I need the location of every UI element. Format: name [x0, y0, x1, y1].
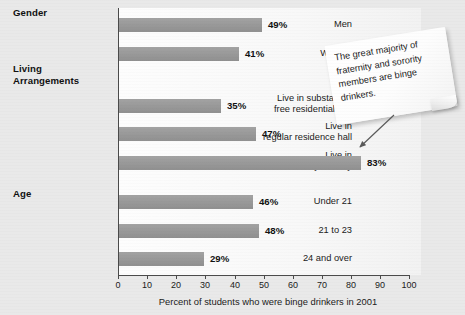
x-axis-title: Percent of students who were binge drink… [118, 296, 418, 307]
bar-value-regular-hall: 47% [262, 127, 281, 141]
bar-value-men: 49% [268, 18, 287, 32]
x-tick-label-80: 80 [339, 280, 363, 290]
bar-under-21 [119, 195, 253, 209]
bar-fraternity-sorority [119, 156, 361, 170]
x-tick-50 [264, 275, 265, 279]
x-tick-0 [118, 275, 119, 279]
group-title-age: Age [13, 188, 31, 200]
x-tick-40 [235, 275, 236, 279]
x-tick-20 [176, 275, 177, 279]
x-tick-label-60: 60 [281, 280, 305, 290]
x-tick-label-90: 90 [368, 280, 392, 290]
x-tick-label-0: 0 [106, 280, 130, 290]
bar-women [119, 47, 239, 61]
x-tick-label-40: 40 [223, 280, 247, 290]
group-title-living-line2: Arrangements [13, 75, 79, 87]
bar-value-substance-free: 35% [227, 99, 246, 113]
bar-value-fraternity-sorority: 83% [367, 156, 386, 170]
x-tick-label-10: 10 [135, 280, 159, 290]
x-tick-label-70: 70 [310, 280, 334, 290]
bar-label-21-to-23: 21 to 23 [318, 225, 352, 236]
x-tick-70 [322, 275, 323, 279]
x-tick-80 [351, 275, 352, 279]
group-title-gender: Gender [13, 7, 47, 19]
bar-label-24-and-over: 24 and over [303, 253, 352, 264]
bar-value-24-and-over: 29% [210, 252, 229, 266]
bar-21-to-23 [119, 224, 259, 238]
bar-substance-free [119, 99, 221, 113]
y-axis-line [118, 8, 119, 276]
bar-label-men: Men [334, 19, 352, 30]
bar-24-and-over [119, 252, 204, 266]
x-tick-label-20: 20 [164, 280, 188, 290]
bar-label-under-21: Under 21 [314, 196, 352, 207]
bar-men [119, 18, 262, 32]
group-title-living-line1: Living [13, 63, 42, 75]
chart-figure: Gender Living Arrangements Age Men Women… [0, 0, 465, 315]
x-tick-label-30: 30 [193, 280, 217, 290]
bar-regular-hall [119, 127, 256, 141]
bar-value-under-21: 46% [259, 195, 278, 209]
x-tick-label-50: 50 [252, 280, 276, 290]
callout-page-curl-icon [430, 95, 458, 111]
x-tick-90 [380, 275, 381, 279]
bar-value-21-to-23: 48% [265, 224, 284, 238]
x-tick-100 [409, 275, 410, 279]
x-tick-30 [205, 275, 206, 279]
x-tick-60 [293, 275, 294, 279]
bar-value-women: 41% [245, 47, 264, 61]
x-tick-label-100: 100 [397, 280, 421, 290]
x-tick-10 [147, 275, 148, 279]
